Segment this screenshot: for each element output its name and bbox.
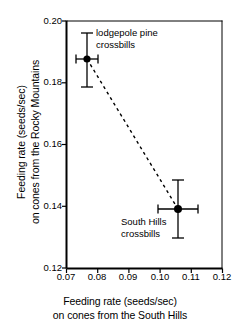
y-tick-marks [62,21,66,268]
annotation-line2: crossbills [96,39,158,51]
scatter-plot-figure: Feeding rate (seeds/sec) on cones from t… [0,0,240,336]
marker-south-hills-crossbills [174,205,182,213]
annotation-south-hills-crossbills: South Hills crossbills [121,216,166,239]
annotation-line1: lodgepole pine [96,27,158,39]
marker-lodgepole-pine-crossbills [83,55,90,62]
plot-area [0,0,240,336]
connector-dashed-line [87,59,178,209]
x-axis-title: Feeding rate (seeds/sec) on cones from t… [0,294,240,322]
x-axis-title-line1: Feeding rate (seeds/sec) [0,294,240,308]
x-axis-title-line2: on cones from the South Hills [0,308,240,322]
annotation-lodgepole-pine-crossbills: lodgepole pine crossbills [96,27,158,50]
annotation-line2: crossbills [121,228,166,240]
annotation-line1: South Hills [121,216,166,228]
